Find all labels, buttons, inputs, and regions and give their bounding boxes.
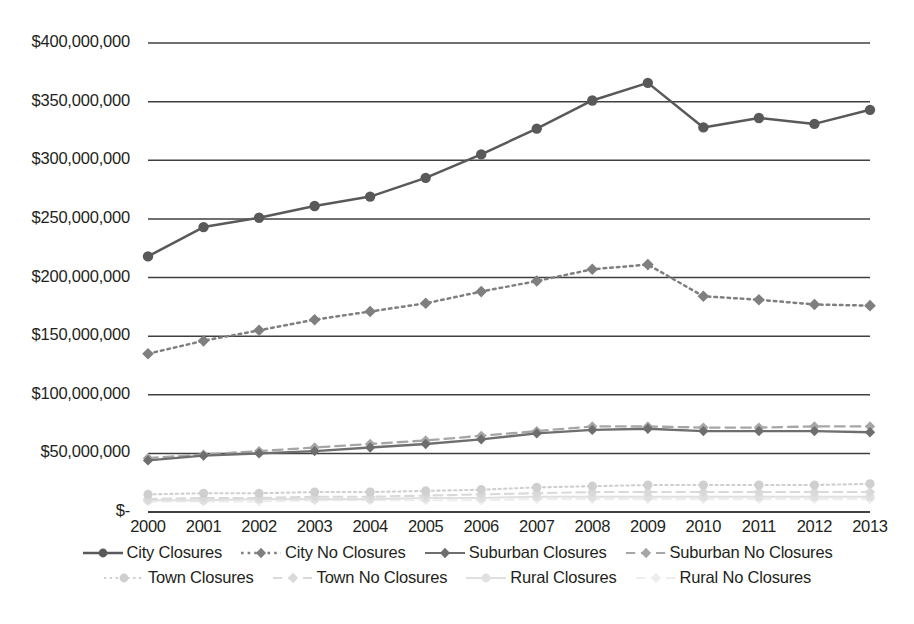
data-point — [865, 105, 875, 115]
x-axis-tick-label: 2013 — [840, 517, 900, 536]
legend-row: City ClosuresCity No ClosuresSuburban Cl… — [0, 540, 914, 565]
data-point — [421, 486, 430, 495]
data-point — [587, 95, 597, 105]
legend-item-town-no-closures[interactable]: Town No Closures — [272, 568, 448, 587]
data-point — [643, 480, 652, 489]
x-axis-tick-label: 2002 — [229, 517, 289, 536]
y-axis-tick-label: $100,000,000 — [0, 384, 130, 403]
data-point — [865, 479, 874, 488]
x-axis-tick-label: 2008 — [562, 517, 622, 536]
legend-item-rural-no-closures[interactable]: Rural No Closures — [635, 568, 811, 587]
x-axis-tick-label: 2011 — [729, 517, 789, 536]
legend-label: City Closures — [127, 543, 223, 562]
data-point — [365, 191, 375, 201]
legend-marker-icon — [240, 546, 282, 560]
legend-item-city-closures[interactable]: City Closures — [82, 543, 223, 562]
data-point — [532, 483, 541, 492]
data-point — [754, 480, 763, 489]
legend-item-city-no-closures[interactable]: City No Closures — [240, 543, 406, 562]
data-point — [198, 222, 208, 232]
legend-item-rural-closures[interactable]: Rural Closures — [465, 568, 616, 587]
data-point — [477, 485, 486, 494]
x-axis-tick-label: 2005 — [396, 517, 456, 536]
x-axis-tick-label: 2007 — [507, 517, 567, 536]
legend-marker-icon — [103, 571, 145, 585]
legend-marker-icon — [82, 546, 124, 560]
series-suburban-no-closures — [143, 421, 875, 463]
y-axis-tick-label: $150,000,000 — [0, 325, 130, 344]
series-suburban-closures — [143, 424, 875, 466]
chart-legend: City ClosuresCity No ClosuresSuburban Cl… — [0, 540, 914, 590]
data-point — [310, 487, 319, 496]
legend-marker-icon — [635, 571, 677, 585]
x-axis-tick-label: 2003 — [285, 517, 345, 536]
data-point — [753, 294, 765, 306]
data-point — [254, 213, 264, 223]
legend-label: Town No Closures — [317, 568, 448, 587]
data-point — [420, 173, 430, 183]
data-point — [309, 201, 319, 211]
data-point — [754, 113, 764, 123]
y-axis-tick-label: $400,000,000 — [0, 32, 130, 51]
data-point — [143, 490, 152, 499]
legend-marker-icon — [424, 546, 466, 560]
data-point — [366, 487, 375, 496]
y-axis-tick-label: $200,000,000 — [0, 267, 130, 286]
x-axis-tick-label: 2012 — [784, 517, 844, 536]
data-point — [199, 489, 208, 498]
legend-label: Suburban No Closures — [670, 543, 833, 562]
legend-marker-icon — [272, 571, 314, 585]
y-axis-tick-label: $350,000,000 — [0, 91, 130, 110]
x-axis-tick-label: 2010 — [673, 517, 733, 536]
legend-item-town-closures[interactable]: Town Closures — [103, 568, 254, 587]
y-axis-tick-label: $300,000,000 — [0, 149, 130, 168]
legend-row: Town ClosuresTown No ClosuresRural Closu… — [0, 565, 914, 590]
y-axis-tick-label: $- — [0, 501, 130, 520]
legend-marker-icon — [625, 546, 667, 560]
x-axis-tick-label: 2006 — [451, 517, 511, 536]
y-axis-tick-label: $50,000,000 — [0, 442, 130, 461]
series-city-closures — [143, 78, 875, 262]
series-city-no-closures — [142, 259, 876, 360]
data-point — [698, 122, 708, 132]
legend-label: Town Closures — [148, 568, 254, 587]
data-point — [476, 149, 486, 159]
y-axis-tick-label: $250,000,000 — [0, 208, 130, 227]
data-point — [143, 251, 153, 261]
data-point — [254, 489, 263, 498]
data-point — [643, 78, 653, 88]
legend-label: Rural No Closures — [680, 568, 811, 587]
data-point — [699, 480, 708, 489]
data-point — [309, 314, 321, 326]
x-axis-tick-label: 2001 — [174, 517, 234, 536]
data-point — [809, 299, 821, 311]
x-axis-tick-label: 2009 — [618, 517, 678, 536]
line-chart: $400,000,000$350,000,000$300,000,000$250… — [0, 0, 914, 624]
legend-item-suburban-closures[interactable]: Suburban Closures — [424, 543, 607, 562]
data-point — [865, 427, 875, 437]
data-point — [364, 306, 376, 318]
data-point — [864, 300, 876, 312]
data-point — [698, 290, 710, 302]
legend-label: Suburban Closures — [469, 543, 607, 562]
legend-item-suburban-no-closures[interactable]: Suburban No Closures — [625, 543, 833, 562]
data-point — [253, 324, 265, 336]
data-point — [475, 286, 487, 298]
data-point — [198, 451, 208, 461]
data-point — [420, 297, 432, 309]
legend-marker-icon — [465, 571, 507, 585]
data-point — [810, 480, 819, 489]
data-point — [588, 482, 597, 491]
data-point — [642, 259, 654, 271]
data-point — [532, 123, 542, 133]
data-point — [586, 263, 598, 275]
x-axis-tick-label: 2004 — [340, 517, 400, 536]
legend-label: City No Closures — [285, 543, 406, 562]
data-point — [142, 348, 154, 360]
data-point — [809, 119, 819, 129]
series-line — [148, 83, 870, 257]
x-axis-tick-label: 2000 — [118, 517, 178, 536]
legend-label: Rural Closures — [510, 568, 616, 587]
